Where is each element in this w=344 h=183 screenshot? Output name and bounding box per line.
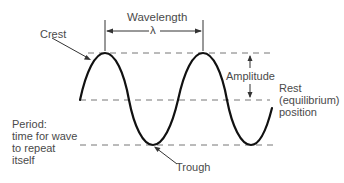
- wave-curve: [80, 53, 272, 145]
- arrowhead-left-icon: [106, 29, 113, 34]
- wave-diagram: Wavelength λ Crest Amplitude Rest (equil…: [0, 0, 344, 183]
- crest-label: Crest: [40, 28, 66, 41]
- amplitude-label: Amplitude: [226, 70, 275, 83]
- crest-arrowhead-icon: [84, 55, 91, 60]
- crest-pointer: [52, 38, 88, 58]
- period-label-line4: itself: [12, 154, 35, 167]
- lambda-symbol: λ: [150, 24, 156, 37]
- arrowhead-right-icon: [195, 29, 202, 34]
- trough-label: Trough: [176, 161, 210, 174]
- amplitude-arrowhead-up-icon: [248, 55, 253, 61]
- trough-pointer: [156, 148, 177, 164]
- wavelength-label: Wavelength: [127, 11, 187, 24]
- rest-label-line3: position: [279, 106, 317, 119]
- amplitude-arrowhead-down-icon: [248, 92, 253, 98]
